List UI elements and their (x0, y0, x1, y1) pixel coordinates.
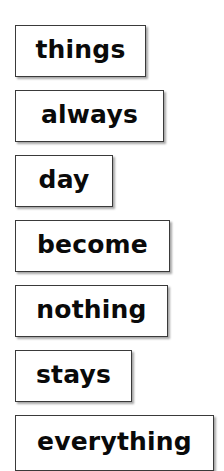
word-card-label: become (37, 230, 148, 259)
word-card-label: nothing (36, 295, 146, 324)
word-card-label: stays (36, 360, 111, 389)
word-card-day[interactable]: day (15, 155, 113, 207)
word-card-label: day (39, 165, 90, 194)
word-card-everything[interactable]: everything (15, 415, 214, 471)
word-card-become[interactable]: become (15, 220, 170, 272)
word-card-stays[interactable]: stays (15, 350, 132, 402)
word-card-label: always (41, 100, 138, 129)
word-card-always[interactable]: always (15, 90, 164, 142)
word-card-label: things (35, 35, 125, 64)
word-card-nothing[interactable]: nothing (15, 285, 168, 337)
word-card-things[interactable]: things (15, 25, 146, 77)
word-card-label: everything (37, 427, 192, 456)
